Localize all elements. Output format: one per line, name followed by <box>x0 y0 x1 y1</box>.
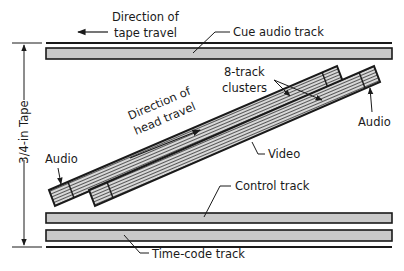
cue-audio-track <box>46 48 392 59</box>
control-annotation: Control track <box>204 179 310 217</box>
video-annotation: Video <box>252 142 300 161</box>
time-code-track <box>46 230 392 241</box>
tape-width-dimension: 3/4-in Tape <box>12 43 42 247</box>
video-label: Video <box>268 147 300 161</box>
audio-right-label: Audio <box>358 115 391 129</box>
tape-width-label: 3/4-in Tape <box>17 100 31 163</box>
time-code-label: Time-code track <box>151 247 245 261</box>
tape-travel-label-line2: tape travel <box>114 26 177 40</box>
audio-left-label: Audio <box>45 152 78 166</box>
clusters-label-line2: clusters <box>222 81 267 95</box>
arrow-up-icon <box>370 88 372 112</box>
arrow-down-icon <box>58 168 61 184</box>
clusters-label-line1: 8-track <box>224 65 265 79</box>
tape-travel-label-line1: Direction of <box>112 10 180 24</box>
tape-travel-annotation: Direction of tape travel <box>78 10 180 40</box>
cue-audio-label: Cue audio track <box>233 25 324 39</box>
audio-right-annotation: Audio <box>358 88 391 129</box>
tape-track-diagram: 3/4-in Tape Direction of tape travel Cue… <box>0 0 404 271</box>
control-label: Control track <box>235 179 310 193</box>
control-track <box>46 213 392 223</box>
